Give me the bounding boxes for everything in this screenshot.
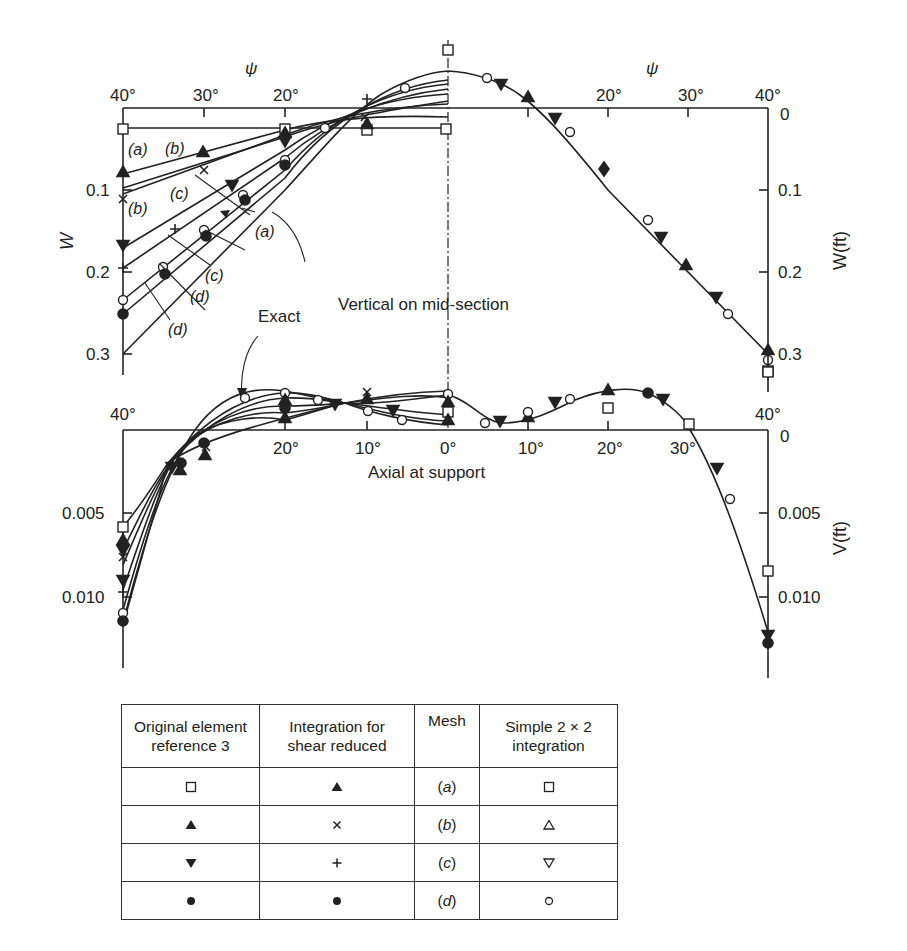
upper-ytick-03-left: 0.3 (86, 345, 110, 364)
upper-xtick-40-left: 40° (110, 86, 136, 105)
label-d2: (d) (168, 321, 188, 338)
open-square-icon (542, 780, 556, 794)
upper-ytick-02-right: 0.2 (778, 263, 802, 282)
upper-ylabel-left: W (57, 231, 77, 250)
open-square-icon (184, 780, 198, 794)
lower-xtick-0: 0° (440, 439, 456, 458)
filled-circle-icon (330, 894, 344, 908)
label-b2: (b) (128, 200, 148, 217)
legend-row-d: (d) (122, 882, 618, 920)
upper-psi-label-right: ψ (646, 59, 658, 78)
open-circle-icon (542, 894, 556, 908)
upper-ytick-02-left: 0.2 (86, 263, 110, 282)
upper-ylabel-right: W(ft) (830, 231, 850, 270)
header-simple: Simple 2 × 2integration (480, 705, 618, 768)
label-d1: (d) (190, 288, 210, 305)
lower-xtick-20-left: 20° (273, 439, 299, 458)
open-triangle-down-icon (542, 856, 556, 870)
upper-psi-label-left: ψ (245, 59, 257, 78)
cross-x-icon (330, 818, 344, 832)
lower-xtick-30-right: 30° (670, 439, 696, 458)
label-c1: (c) (170, 185, 189, 202)
mesh-d: (d) (415, 882, 480, 920)
label-a1: (a) (128, 141, 148, 158)
label-a2: (a) (255, 223, 275, 240)
filled-triangle-up-icon (330, 780, 344, 794)
mesh-b: (b) (415, 806, 480, 844)
lower-ylabel-right: V(ft) (830, 521, 850, 555)
header-mesh: Mesh (415, 705, 480, 768)
lower-ytick-0-right: 0 (780, 427, 789, 446)
label-c2: (c) (205, 267, 224, 284)
filled-triangle-down-icon (184, 856, 198, 870)
filled-circle-icon (184, 894, 198, 908)
lower-xtick-10-right: 10° (518, 439, 544, 458)
header-original: Original elementreference 3 (122, 705, 260, 768)
legend-header-row: Original elementreference 3 Integration … (122, 705, 618, 768)
lower-xtick-10-left: 10° (355, 439, 381, 458)
upper-xtick-30-left: 30° (193, 86, 219, 105)
lower-ytick-0005-right: 0.005 (778, 504, 821, 523)
lower-xtick-40-left: 40° (110, 405, 136, 424)
lower-xtick-20-right: 20° (597, 439, 623, 458)
upper-xtick-30-right: 30° (678, 86, 704, 105)
lower-ytick-0010-left: 0.010 (62, 588, 105, 607)
mesh-a: (a) (415, 768, 480, 806)
legend-row-b: (b) (122, 806, 618, 844)
filled-triangle-up-icon (184, 818, 198, 832)
upper-ytick-01-left: 0.1 (86, 181, 110, 200)
legend-table: Original elementreference 3 Integration … (121, 704, 618, 920)
lower-ytick-0005-left: 0.005 (62, 504, 105, 523)
lower-chart (117, 367, 774, 678)
exact-label: Exact (258, 307, 301, 326)
upper-ytick-01-right: 0.1 (778, 181, 802, 200)
legend-row-a: (a) (122, 768, 618, 806)
open-triangle-up-icon (542, 818, 556, 832)
lower-ytick-0010-right: 0.010 (778, 588, 821, 607)
lower-title: Axial at support (368, 463, 485, 482)
mesh-c: (c) (415, 844, 480, 882)
figure: ψ ψ 40° 30° 20° 20° 30° 40° 0 0.1 0.2 0.… (0, 0, 907, 700)
plus-icon (330, 856, 344, 870)
upper-title: Vertical on mid-section (338, 295, 509, 314)
upper-ytick-0-right: 0 (780, 105, 789, 124)
upper-xtick-40-right: 40° (755, 86, 781, 105)
header-shear-reduced: Integration forshear reduced (260, 705, 415, 768)
legend-row-c: (c) (122, 844, 618, 882)
lower-xtick-40-right: 40° (755, 405, 781, 424)
upper-xtick-20-right: 20° (596, 86, 622, 105)
exact-curve-lower (123, 389, 768, 632)
label-b1: (b) (165, 140, 185, 157)
upper-xtick-20-left: 20° (273, 86, 299, 105)
upper-ytick-03-right: 0.3 (778, 345, 802, 364)
